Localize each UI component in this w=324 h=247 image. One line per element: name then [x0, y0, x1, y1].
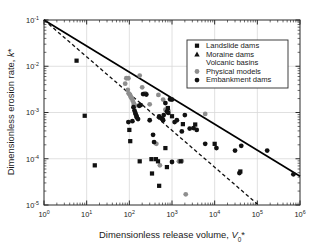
data-point: [194, 128, 199, 133]
data-point: [233, 148, 238, 153]
legend-marker-circle: [195, 78, 200, 83]
data-point: [239, 143, 244, 148]
data-point: [291, 172, 296, 177]
data-point: [156, 93, 161, 98]
data-point: [182, 113, 187, 118]
legend-label: Embankment dams: [206, 75, 272, 84]
data-point: [127, 128, 131, 132]
data-point: [130, 119, 135, 124]
data-point: [151, 132, 156, 137]
x-axis-label-main: Dimensionless release volume,: [99, 229, 231, 240]
data-point: [237, 171, 242, 176]
legend: Landslide damsMoraine damsVolcanic basin…: [187, 40, 288, 88]
data-point: [170, 160, 175, 165]
data-point: [183, 192, 188, 197]
data-point: [83, 114, 87, 118]
log-log-scatter-plot: 10010110210310410510610-110-210-310-410-…: [0, 0, 324, 247]
data-point: [149, 157, 153, 161]
data-point: [265, 148, 270, 153]
data-point: [213, 142, 217, 146]
data-point: [157, 163, 162, 168]
data-point: [163, 101, 168, 106]
data-point: [214, 146, 219, 151]
data-point: [137, 73, 142, 78]
data-point: [161, 113, 166, 118]
data-point: [203, 112, 208, 117]
chart-figure: 10010110210310410510610-110-210-310-410-…: [0, 0, 324, 247]
data-point: [93, 163, 97, 167]
data-point: [147, 102, 152, 107]
data-point: [152, 140, 157, 145]
data-point: [157, 184, 161, 188]
data-point: [170, 114, 174, 118]
data-point: [179, 159, 183, 163]
legend-marker-circle: [195, 69, 200, 74]
data-point: [181, 122, 185, 126]
data-point: [74, 59, 78, 63]
data-point: [161, 118, 166, 123]
data-point: [126, 120, 131, 125]
data-point: [126, 76, 131, 81]
data-point: [147, 118, 152, 123]
data-point: [150, 171, 154, 175]
data-point: [144, 92, 149, 97]
y-axis-label-star: *: [5, 48, 16, 52]
data-point: [179, 129, 184, 134]
y-axis-label-main: Dimensionless erosion rate,: [5, 57, 16, 175]
data-point: [138, 103, 143, 108]
legend-marker-square: [195, 44, 199, 48]
data-point: [123, 81, 128, 86]
data-point: [170, 97, 175, 102]
svg-text:Dimensionless erosion rate, k*: Dimensionless erosion rate, k*: [5, 48, 16, 175]
data-point: [163, 146, 167, 150]
data-point: [203, 141, 208, 146]
data-point: [174, 118, 179, 123]
data-point: [156, 159, 160, 163]
y-axis-label: Dimensionless erosion rate, k*: [5, 48, 16, 175]
data-point: [140, 85, 145, 90]
data-point: [136, 117, 141, 122]
data-point: [138, 159, 142, 163]
data-point: [128, 139, 132, 143]
data-point: [165, 165, 169, 169]
x-axis-label-star: *: [241, 229, 245, 240]
data-point: [166, 111, 171, 116]
